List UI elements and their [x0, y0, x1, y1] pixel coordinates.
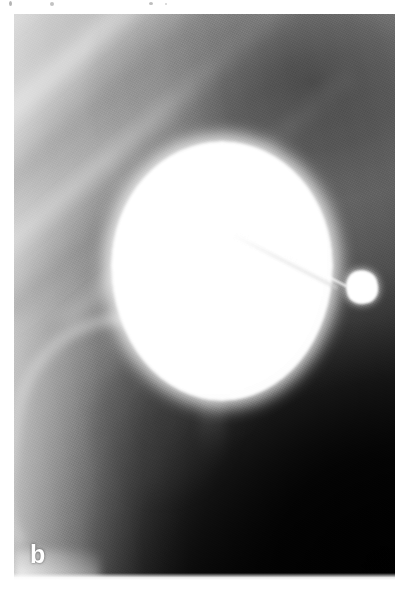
- panel-label: b: [30, 542, 45, 567]
- scan-speck: [165, 3, 167, 5]
- contrast-filled-bladder-core: [118, 149, 324, 391]
- diagonal-tissue-band: [14, 14, 170, 99]
- figure-root: b: [0, 0, 409, 592]
- diagonal-tissue-band: [14, 14, 305, 164]
- scan-speck: [9, 1, 12, 6]
- scan-speck: [149, 2, 153, 5]
- film-bottom-edge: [14, 573, 395, 580]
- radiograph-image: b: [14, 14, 395, 580]
- retention-balloon-tip: [343, 267, 381, 307]
- scan-speck: [50, 2, 54, 6]
